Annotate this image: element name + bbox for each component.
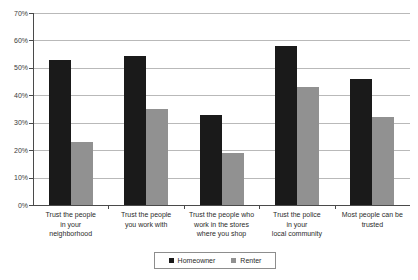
x-axis-category-label: Trust the peopleyou work with [108,210,183,239]
y-axis-tick-label: 10% [0,174,28,181]
x-axis-category-label: Trust the policein yourlocal community [259,210,334,239]
bar-group [184,13,259,205]
legend-item-renter: Renter [231,257,261,265]
bar-group [259,13,334,205]
bar-chart: 0%10%20%30%40%50%60%70% Trust the people… [0,0,418,280]
x-axis-separator-tick [184,205,185,209]
bar-renter [71,142,93,205]
y-axis-tick-label: 70% [0,10,28,17]
bar-homeowner [275,46,297,205]
y-axis-tick-label: 20% [0,147,28,154]
x-axis-category-label: Trust the people whowork in the storeswh… [184,210,259,239]
y-axis-tick-mark [29,205,34,206]
legend-swatch-icon [231,258,236,263]
chart-legend: Homeowner Renter [154,252,276,269]
legend-swatch-icon [169,258,174,263]
y-axis-tick-label: 40% [0,92,28,99]
legend-label: Homeowner [178,257,216,265]
x-axis-category-label: Trust the peoplein yourneighborhood [33,210,108,239]
x-axis-separator-tick [335,205,336,209]
legend-label: Renter [240,257,261,265]
bar-homeowner [200,115,222,206]
bar-group [33,13,108,205]
bar-group [335,13,410,205]
legend-item-homeowner: Homeowner [169,257,216,265]
y-axis-tick-label: 60% [0,37,28,44]
bar-homeowner [350,79,372,205]
bar-renter [372,117,394,205]
bar-groups [33,13,410,205]
y-axis-tick-label: 30% [0,119,28,126]
bar-renter [146,109,168,205]
y-axis-tick-label: 50% [0,64,28,71]
bar-homeowner [124,56,146,205]
x-axis-separator-tick [259,205,260,209]
x-axis-category-label: Most people can betrusted [335,210,410,239]
x-axis-separator-tick [108,205,109,209]
bar-renter [297,87,319,205]
bar-homeowner [49,60,71,205]
bar-group [108,13,183,205]
x-axis-line [33,205,410,206]
bar-renter [222,153,244,205]
x-axis-category-labels: Trust the peoplein yourneighborhoodTrust… [33,210,410,239]
y-axis-tick-label: 0% [0,202,28,209]
